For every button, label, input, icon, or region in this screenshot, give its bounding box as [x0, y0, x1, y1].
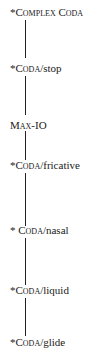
- node-complex-coda: *Complex Coda: [10, 6, 83, 18]
- constraint-suffix: /stop: [40, 62, 61, 74]
- edge-line: [25, 298, 26, 336]
- node-coda-liquid: *Coda/liquid: [10, 284, 69, 296]
- edge-line: [25, 20, 26, 58]
- constraint-suffix: /glide: [40, 336, 65, 348]
- node-coda-stop: *Coda/stop: [10, 62, 62, 74]
- constraint-name: Complex Coda: [16, 6, 84, 18]
- constraint-name: Coda: [16, 284, 41, 296]
- node-coda-glide: *Coda/glide: [10, 336, 65, 348]
- constraint-suffix: /liquid: [40, 284, 69, 296]
- edge-line: [25, 76, 26, 115]
- edge-line: [25, 173, 26, 226]
- constraint-suffix: /nasal: [43, 224, 69, 236]
- constraint-name: Coda: [16, 62, 41, 74]
- constraint-name: Coda: [16, 159, 41, 171]
- node-max-io: Max-IO: [10, 119, 47, 131]
- node-coda-fricative: *Coda/fricative: [10, 159, 80, 171]
- constraint-suffix: /fricative: [40, 159, 80, 171]
- constraint-name: Coda: [16, 336, 41, 348]
- star: *: [10, 224, 18, 236]
- constraint-name: Coda: [18, 224, 43, 236]
- node-coda-nasal: * Coda/nasal: [10, 224, 69, 236]
- edge-line: [25, 238, 26, 285]
- constraint-name: Max-IO: [10, 119, 47, 131]
- edge-line: [25, 131, 26, 160]
